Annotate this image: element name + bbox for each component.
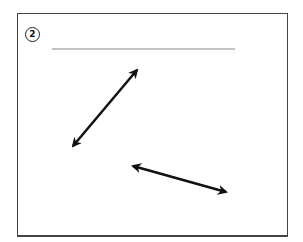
double-arrow-diagonal-down [133, 166, 226, 192]
double-arrow-diagonal-up [73, 70, 137, 146]
diagram-canvas [0, 0, 303, 242]
